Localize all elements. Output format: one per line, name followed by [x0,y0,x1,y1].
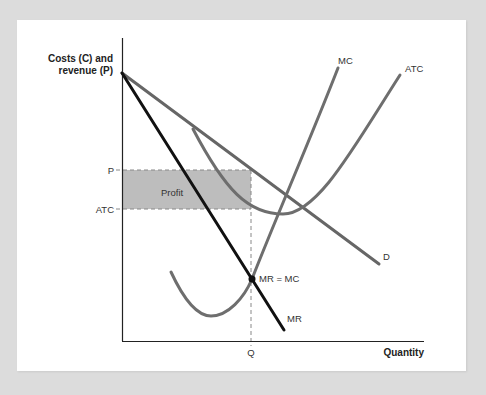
p-tick-label: P [108,165,114,176]
q-tick-label: Q [247,347,254,358]
mr-eq-mc-label: MR = MC [259,273,300,284]
mr-label: MR [287,313,302,324]
atc-tick-label: ATC [96,204,114,215]
atc-label: ATC [405,63,423,74]
y-axis-label-line2: revenue (P) [59,65,113,76]
mr-mc-point [249,276,256,283]
x-axis-label: Quantity [383,347,424,358]
demand-label: D [383,251,390,262]
mc-label: MC [338,55,353,66]
monopoly-chart: Costs (C) and revenue (P) Quantity P ATC… [0,0,486,395]
y-axis-label-line1: Costs (C) and [48,53,113,64]
profit-label: Profit [161,187,184,198]
